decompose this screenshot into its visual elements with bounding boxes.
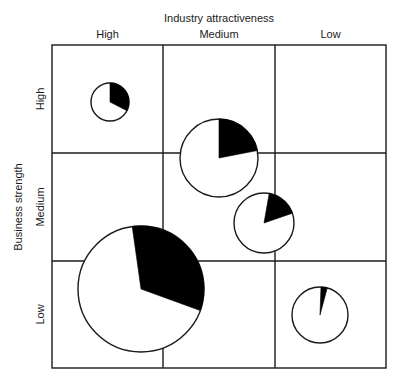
y-axis-title: Business strength: [12, 163, 24, 250]
x-axis-title: Industry attractiveness: [164, 12, 275, 24]
bubble: [180, 119, 258, 197]
y-tick-label: High: [34, 88, 46, 111]
bubble: [78, 226, 204, 352]
y-tick-label: Low: [34, 304, 46, 324]
x-tick-label: High: [96, 28, 119, 40]
x-axis-tick-labels: HighMediumLow: [96, 28, 340, 40]
bubble-series: [78, 83, 348, 352]
growth-share-matrix-chart: Industry attractiveness HighMediumLow Bu…: [0, 0, 403, 380]
x-tick-label: Low: [320, 28, 340, 40]
bubble: [234, 193, 294, 253]
y-axis-tick-labels: HighMediumLow: [34, 88, 46, 325]
y-tick-label: Medium: [34, 187, 46, 226]
bubble: [292, 287, 348, 343]
bubble: [91, 83, 129, 121]
x-tick-label: Medium: [199, 28, 238, 40]
